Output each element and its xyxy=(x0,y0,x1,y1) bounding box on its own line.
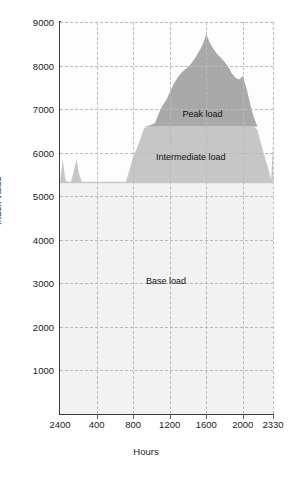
y-axis-title: Index value xyxy=(0,176,3,225)
load-duration-chart: Peak loadIntermediate loadBase load Inde… xyxy=(0,0,292,478)
base-load-area xyxy=(60,183,273,414)
gridline-horizontal xyxy=(60,370,273,371)
x-tick-label: 2000 xyxy=(232,419,253,430)
gridline-horizontal xyxy=(60,196,273,197)
y-tick-label: 1000 xyxy=(14,365,54,376)
y-tick-label: 3000 xyxy=(14,278,54,289)
y-tick-label: 4000 xyxy=(14,234,54,245)
gridline-vertical xyxy=(97,22,98,414)
gridline-vertical xyxy=(206,22,207,414)
y-tick-label: 7000 xyxy=(14,104,54,115)
gridline-horizontal xyxy=(60,240,273,241)
gridline-vertical xyxy=(273,22,274,414)
load-curve-areas xyxy=(60,22,273,414)
y-tick-label: 2000 xyxy=(14,321,54,332)
y-tick-label: 8000 xyxy=(14,60,54,71)
x-axis-title: Hours xyxy=(0,446,292,457)
x-tick-label: 800 xyxy=(125,419,141,430)
x-tick-label: 400 xyxy=(89,419,105,430)
x-tick-label: 1600 xyxy=(196,419,217,430)
band-label-base-load: Base load xyxy=(146,276,186,286)
gridline-vertical xyxy=(170,22,171,414)
gridline-vertical xyxy=(133,22,134,414)
band-label-peak-load: Peak load xyxy=(183,109,223,119)
gridline-horizontal xyxy=(60,109,273,110)
gridline-horizontal xyxy=(60,22,273,23)
plot-area: Peak loadIntermediate loadBase load xyxy=(60,22,273,414)
gridline-horizontal xyxy=(60,327,273,328)
gridline-vertical xyxy=(243,22,244,414)
x-tick-label: 2330 xyxy=(262,419,283,430)
band-label-intermediate-load: Intermediate load xyxy=(156,152,226,162)
x-tick-label: 1200 xyxy=(159,419,180,430)
x-tick-label: 2400 xyxy=(49,419,70,430)
y-tick-label: 5000 xyxy=(14,191,54,202)
gridline-horizontal xyxy=(60,66,273,67)
figure-title xyxy=(0,0,292,5)
y-tick-label: 9000 xyxy=(14,17,54,28)
y-tick-label: 6000 xyxy=(14,147,54,158)
peak-load-area xyxy=(60,34,273,126)
